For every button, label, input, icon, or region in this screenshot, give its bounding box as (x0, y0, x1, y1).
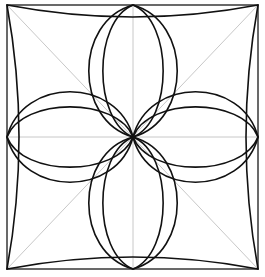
geometric-tile-diagram (0, 0, 265, 277)
